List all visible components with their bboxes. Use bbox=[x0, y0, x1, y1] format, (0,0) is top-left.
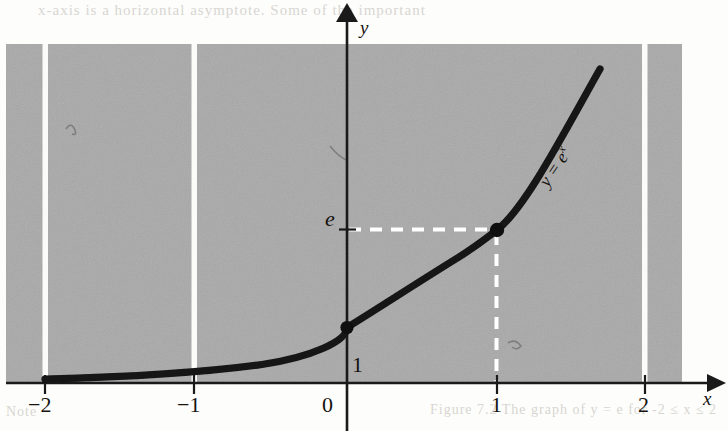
x-tick-label--1: −1 bbox=[177, 392, 200, 418]
y-tick-label-e: e bbox=[325, 206, 335, 232]
y-axis-label: y bbox=[360, 17, 368, 39]
exponential-function-figure: x-axis is a horizontal asymptote. Some o… bbox=[0, 0, 728, 431]
point-1-e bbox=[490, 223, 504, 237]
x-axis-label: x bbox=[703, 388, 711, 410]
graph-canvas bbox=[0, 0, 728, 431]
y-axis-arrowhead bbox=[336, 3, 358, 22]
point-0-1 bbox=[340, 321, 353, 334]
x-tick-label-2: 2 bbox=[638, 392, 649, 418]
y-value-label-1: 1 bbox=[352, 352, 363, 378]
x-tick-label-0: 0 bbox=[322, 392, 333, 418]
x-tick-label-1: 1 bbox=[491, 392, 502, 418]
x-tick-label--2: −2 bbox=[28, 392, 51, 418]
